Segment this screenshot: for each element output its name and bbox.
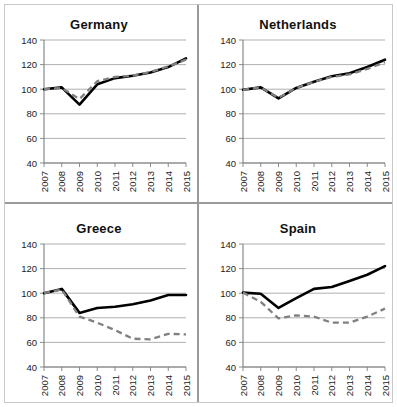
x-tick-label: 2013 (145, 375, 156, 396)
y-tick-label: 60 (26, 133, 37, 144)
x-tick-label: 2010 (92, 375, 103, 396)
y-tick-label: 60 (225, 133, 236, 144)
x-tick-label: 2007 (238, 375, 249, 396)
x-tick-label: 2013 (344, 375, 355, 396)
x-tick-label: 2015 (380, 171, 391, 192)
y-tick-label: 120 (21, 59, 37, 70)
x-tick-label: 2013 (344, 171, 355, 192)
y-tick-label: 40 (225, 158, 236, 169)
y-tick-label: 140 (220, 239, 236, 250)
x-tick-label: 2014 (163, 375, 174, 396)
x-tick-label: 2009 (273, 375, 284, 396)
panel-greece: Greece 406080100120140200720082009201020… (0, 204, 198, 407)
panel-germany: Germany 40608010012014020072008200920102… (0, 0, 198, 203)
y-tick-label: 100 (220, 288, 236, 299)
x-tick-label: 2007 (39, 171, 50, 192)
y-tick-label: 140 (21, 239, 37, 250)
panel-netherlands: Netherlands 4060801001201402007200820092… (199, 0, 397, 203)
x-tick-label: 2014 (163, 171, 174, 192)
y-tick-label: 100 (220, 84, 236, 95)
x-tick-label: 2008 (56, 375, 67, 396)
y-tick-label: 120 (220, 59, 236, 70)
series-line-solid (243, 266, 385, 308)
series-line-solid (44, 289, 186, 313)
y-tick-label: 80 (26, 108, 37, 119)
y-tick-label: 140 (21, 35, 37, 46)
y-tick-label: 140 (220, 35, 236, 46)
y-tick-label: 100 (21, 84, 37, 95)
series-line-solid (243, 60, 385, 99)
y-tick-label: 40 (225, 362, 236, 373)
x-tick-label: 2013 (145, 171, 156, 192)
y-tick-label: 80 (225, 312, 236, 323)
x-tick-label: 2011 (309, 375, 320, 395)
x-tick-label: 2015 (380, 375, 391, 396)
x-tick-label: 2008 (56, 171, 67, 192)
y-tick-label: 100 (21, 288, 37, 299)
x-tick-label: 2015 (181, 375, 192, 396)
x-tick-label: 2011 (309, 171, 320, 191)
y-tick-label: 60 (225, 337, 236, 348)
y-tick-label: 120 (220, 263, 236, 274)
x-tick-label: 2011 (110, 375, 121, 395)
chart-netherlands: 4060801001201402007200820092010201120122… (199, 0, 397, 203)
chart-germany: 4060801001201402007200820092010201120122… (0, 0, 198, 203)
y-tick-label: 80 (26, 312, 37, 323)
x-tick-label: 2012 (127, 375, 138, 396)
chart-figure: Germany 40608010012014020072008200920102… (0, 0, 397, 407)
x-tick-label: 2012 (326, 171, 337, 192)
x-tick-label: 2014 (362, 171, 373, 192)
y-tick-label: 80 (225, 108, 236, 119)
x-tick-label: 2009 (273, 171, 284, 192)
series-line-solid (44, 58, 186, 104)
x-tick-label: 2008 (255, 171, 266, 192)
panel-spain: Spain 4060801001201402007200820092010201… (199, 204, 397, 407)
x-tick-label: 2012 (127, 171, 138, 192)
x-tick-label: 2009 (74, 171, 85, 192)
y-tick-label: 40 (26, 158, 37, 169)
y-tick-label: 40 (26, 362, 37, 373)
x-tick-label: 2007 (238, 171, 249, 192)
chart-greece: 4060801001201402007200820092010201120122… (0, 204, 198, 407)
x-tick-label: 2014 (362, 375, 373, 396)
chart-spain: 4060801001201402007200820092010201120122… (199, 204, 397, 407)
y-tick-label: 60 (26, 337, 37, 348)
x-tick-label: 2009 (74, 375, 85, 396)
x-tick-label: 2007 (39, 375, 50, 396)
x-tick-label: 2015 (181, 171, 192, 192)
x-tick-label: 2012 (326, 375, 337, 396)
x-tick-label: 2010 (291, 171, 302, 192)
x-tick-label: 2011 (110, 171, 121, 191)
x-tick-label: 2008 (255, 375, 266, 396)
x-tick-label: 2010 (92, 171, 103, 192)
x-tick-label: 2010 (291, 375, 302, 396)
y-tick-label: 120 (21, 263, 37, 274)
